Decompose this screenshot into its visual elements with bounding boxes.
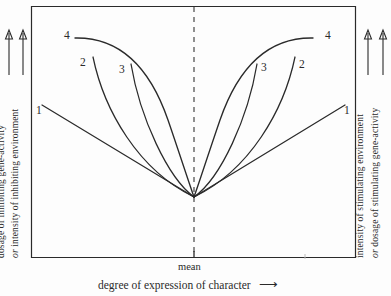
x-axis-title: degree of expression of character⟶ [98, 277, 278, 293]
left-axis-label-line2: or intensity of inhibiting environment [10, 109, 20, 258]
curve-label-right-4: 4 [325, 30, 331, 42]
curve-label-left-2: 2 [80, 57, 86, 69]
left-axis-label-line2-text: intensity of inhibiting environment [10, 109, 20, 250]
right-axis-arrow-inner-icon [365, 30, 372, 75]
curve-label-left-1: 1 [36, 105, 42, 117]
x-axis-title-text: degree of expression of character [98, 279, 251, 291]
right-axis-arrow-outer-icon [380, 30, 387, 75]
curve-2-right [194, 57, 295, 197]
curve-label-right-1: 1 [344, 105, 350, 117]
curve-label-left-4: 4 [64, 30, 70, 42]
curve-label-left-3: 3 [119, 64, 125, 76]
left-axis-arrow-inner-icon [20, 30, 27, 75]
plot-canvas [0, 0, 391, 296]
figure-container: dosage of inhibiting gene-activity or in… [0, 0, 391, 296]
left-axis-label-line1: dosage of inhibiting gene-activity [0, 125, 6, 258]
right-axis-or-word: or [370, 249, 380, 258]
right-axis-label-line2: or dosage of stimulating gene-activity [370, 108, 380, 258]
curve-4-right [194, 38, 313, 197]
curve-label-right-3: 3 [261, 62, 267, 74]
right-axis-label-line1: intensity of stimulating environment [355, 114, 365, 258]
x-axis-mean-tick-label: mean [178, 261, 201, 272]
left-axis-or-word: or [10, 249, 20, 258]
x-axis-arrow-icon: ⟶ [251, 277, 278, 292]
left-axis-arrow-outer-icon [6, 30, 13, 75]
curve-2-left [93, 57, 194, 197]
curve-label-right-2: 2 [299, 59, 305, 71]
right-axis-label-line2-text: dosage of stimulating gene-activity [370, 108, 380, 250]
curve-4-left [75, 38, 194, 197]
